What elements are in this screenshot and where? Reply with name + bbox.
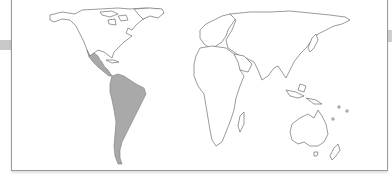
tasmania — [314, 152, 318, 156]
africa — [194, 46, 244, 146]
southeast-asia-islands — [286, 84, 322, 104]
madagascar — [238, 112, 244, 132]
caribbean — [106, 60, 119, 63]
new-zealand — [330, 144, 340, 160]
south-america — [110, 74, 146, 164]
pacific-islands — [332, 106, 348, 120]
australia — [290, 110, 328, 146]
world-map — [0, 0, 392, 177]
